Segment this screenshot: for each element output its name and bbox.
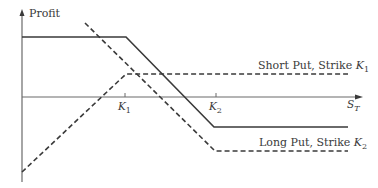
combined-payoff-line: [22, 37, 348, 127]
x-axis-label: ST: [347, 98, 360, 113]
y-axis-arrow-icon: [20, 9, 25, 16]
long-put-line: [85, 23, 348, 151]
y-axis-label: Profit: [29, 7, 61, 20]
long-put-label: Long Put, Strike K2: [259, 136, 367, 151]
k2-tick-label: K2: [208, 100, 222, 115]
short-put-line: [22, 74, 348, 172]
y-axis: [20, 9, 25, 182]
k1-tick-label: K1: [117, 100, 131, 115]
short-put-label: Short Put, Strike K1: [258, 59, 369, 74]
bear-spread-payoff-diagram: Profit ST K1 K2 Short Put, Strike K1 Lon…: [0, 0, 378, 188]
x-axis: [22, 95, 363, 100]
x-axis-arrow-icon: [355, 95, 363, 100]
